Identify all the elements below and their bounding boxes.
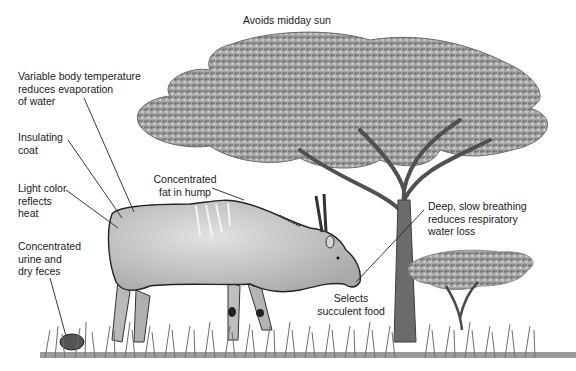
label-insulating-coat: Insulating coat [18, 131, 63, 156]
label-variable-body-temperature: Variable body temperature reduces evapor… [18, 70, 141, 108]
eland-animal [109, 194, 361, 342]
label-fat-in-hump: Concentrated fat in hump [150, 173, 220, 198]
illustration [0, 0, 576, 371]
label-deep-slow-breathing: Deep, slow breathing reduces respiratory… [428, 200, 527, 238]
label-avoids-midday-sun: Avoids midday sun [243, 14, 331, 27]
label-concentrated-urine: Concentrated urine and dry feces [18, 240, 81, 278]
label-light-color: Light color reflects heat [18, 182, 66, 220]
label-selects-succulent-food: Selects succulent food [314, 292, 388, 317]
small-acacia-tree [408, 250, 533, 330]
